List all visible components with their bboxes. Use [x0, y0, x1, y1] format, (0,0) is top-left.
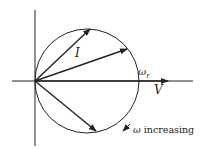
omega-increasing-label: ω increasing	[133, 125, 194, 135]
omega-direction-symbol: ω	[133, 124, 141, 135]
current-label: I	[75, 47, 80, 59]
current-phasor-2	[35, 49, 127, 81]
resonant-subscript: r	[146, 72, 149, 80]
resonant-freq-label: ωr	[138, 67, 150, 80]
direction-arrow	[123, 124, 130, 131]
increasing-text: increasing	[144, 124, 194, 135]
omega-symbol: ω	[138, 66, 146, 77]
current-phasor-3	[35, 81, 96, 131]
voltage-label: V	[154, 84, 163, 96]
current-phasor-1	[35, 29, 90, 81]
phasor-diagram: I ωr V ω increasing	[0, 0, 202, 149]
